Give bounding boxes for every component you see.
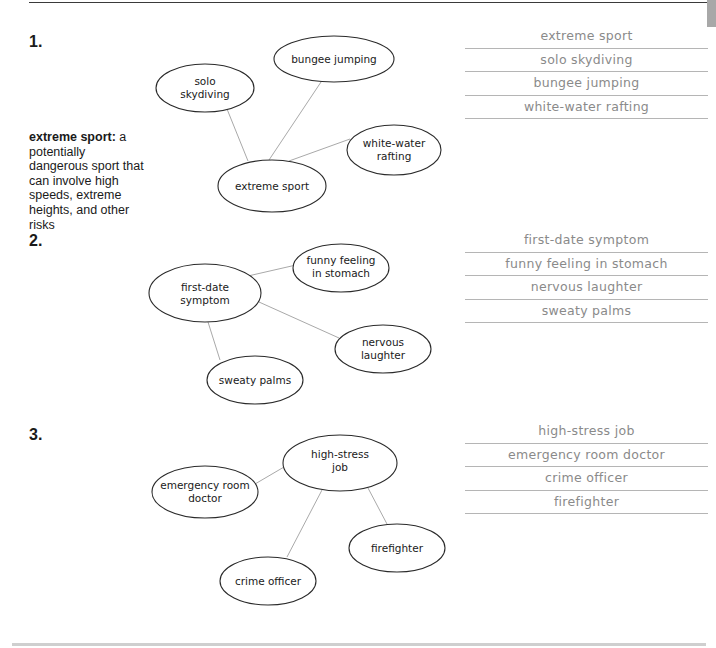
answer-line[interactable]: firefighter	[465, 491, 708, 515]
answer-line[interactable]: white-water rafting	[465, 96, 708, 120]
node-label: skydiving	[180, 88, 229, 100]
answer-line[interactable]: bungee jumping	[465, 72, 708, 96]
node-first-date-symptom	[149, 264, 261, 322]
node-label: funny feeling	[307, 254, 376, 266]
node-label: doctor	[188, 492, 222, 504]
answer-line[interactable]: emergency room doctor	[465, 444, 708, 468]
node-label: emergency room	[160, 479, 250, 491]
answer-list-2: first-date symptom funny feeling in stom…	[465, 229, 708, 323]
answer-line[interactable]: nervous laughter	[465, 276, 708, 300]
node-label: symptom	[180, 294, 229, 306]
node-label: job	[331, 461, 348, 473]
answer-line[interactable]: solo skydiving	[465, 49, 708, 73]
node-label: sweaty palms	[219, 374, 291, 386]
node-label: bungee jumping	[291, 53, 377, 65]
answer-list-3: high-stress job emergency room doctor cr…	[465, 420, 708, 514]
bottom-rule	[12, 643, 706, 646]
answer-line[interactable]: first-date symptom	[465, 229, 708, 253]
node-label: extreme sport	[235, 180, 309, 192]
node-label: in stomach	[312, 267, 370, 279]
node-label: firefighter	[371, 542, 424, 554]
answer-line[interactable]: crime officer	[465, 467, 708, 491]
node-label: nervous	[362, 336, 404, 348]
node-label: solo	[194, 75, 215, 87]
node-label: white-water	[363, 137, 426, 149]
node-label: rafting	[377, 150, 412, 162]
node-label: crime officer	[235, 575, 302, 587]
answer-line[interactable]: extreme sport	[465, 25, 708, 49]
answer-line[interactable]: sweaty palms	[465, 300, 708, 324]
answer-line[interactable]: high-stress job	[465, 420, 708, 444]
answer-list-1: extreme sport solo skydiving bungee jump…	[465, 25, 708, 119]
answer-line[interactable]: funny feeling in stomach	[465, 253, 708, 277]
node-label: laughter	[361, 349, 406, 361]
node-label: high-stress	[311, 448, 369, 460]
node-label: first-date	[181, 281, 229, 293]
